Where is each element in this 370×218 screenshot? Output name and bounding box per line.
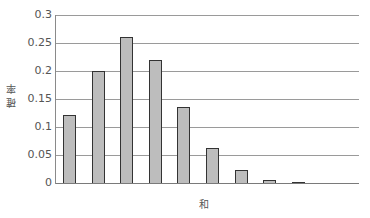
y-tick-label: 0 — [45, 177, 52, 189]
y-tick-label: 0.15 — [28, 93, 53, 105]
bar-1 — [63, 115, 76, 183]
y-tick-label: 0.2 — [35, 65, 53, 77]
bar-5 — [177, 107, 190, 183]
y-tick-label: 0.25 — [28, 37, 53, 49]
y-axis-line — [55, 15, 56, 184]
bar-4 — [149, 60, 162, 183]
y-tick-label: 0.05 — [28, 149, 53, 161]
bar-7 — [235, 170, 248, 183]
gridline — [55, 43, 359, 44]
x-axis-label: 和 — [199, 196, 209, 211]
gridline — [55, 15, 359, 16]
bar-6 — [206, 148, 219, 183]
bar-2 — [92, 71, 105, 183]
y-tick-label: 0.3 — [35, 9, 53, 21]
y-tick-label: 0.1 — [35, 121, 53, 133]
bar-9 — [292, 182, 305, 183]
bar-8 — [263, 180, 276, 183]
y-axis-label: 確率 — [4, 80, 18, 108]
bar-3 — [120, 37, 133, 183]
gridline — [55, 183, 359, 184]
